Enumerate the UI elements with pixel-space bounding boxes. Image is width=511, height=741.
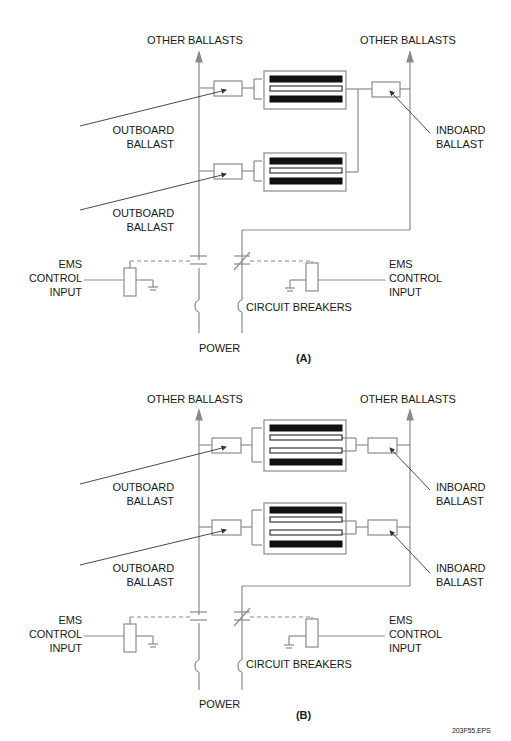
label-line: INBOARD bbox=[436, 561, 485, 575]
label-circuit-breakers-b: CIRCUIT BREAKERS bbox=[246, 657, 352, 671]
label-line: CONTROL bbox=[10, 627, 82, 641]
label-line: OUTBOARD bbox=[100, 561, 174, 575]
label-power-a: POWER bbox=[199, 341, 240, 355]
label-ems-control-input-left-b: EMS CONTROL INPUT bbox=[10, 613, 82, 655]
label-line: BALLAST bbox=[436, 494, 485, 508]
label-other-ballasts-right-a: OTHER BALLASTS bbox=[360, 33, 456, 47]
label-line: CONTROL bbox=[10, 271, 82, 285]
label-outboard-ballast-a2: OUTBOARD BALLAST bbox=[100, 206, 174, 234]
label-line: BALLAST bbox=[100, 220, 174, 234]
label-line: OUTBOARD bbox=[100, 480, 174, 494]
diagram-a-wiring bbox=[84, 52, 413, 333]
label-outboard-ballast-a1: OUTBOARD BALLAST bbox=[100, 123, 174, 151]
label-ems-control-input-left-a: EMS CONTROL INPUT bbox=[10, 257, 82, 299]
label-line: BALLAST bbox=[100, 494, 174, 508]
label-other-ballasts-left-b: OTHER BALLASTS bbox=[147, 392, 243, 406]
label-line: CONTROL bbox=[389, 271, 442, 285]
label-ems-control-input-right-b: EMS CONTROL INPUT bbox=[389, 613, 442, 655]
label-circuit-breakers-a: CIRCUIT BREAKERS bbox=[246, 300, 352, 314]
label-line: EMS bbox=[389, 257, 442, 271]
label-line: BALLAST bbox=[436, 137, 485, 151]
diagram-b-lamps bbox=[270, 425, 342, 547]
label-line: INPUT bbox=[389, 641, 442, 655]
label-outboard-ballast-b1: OUTBOARD BALLAST bbox=[100, 480, 174, 508]
label-line: INPUT bbox=[10, 641, 82, 655]
label-other-ballasts-right-b: OTHER BALLASTS bbox=[360, 392, 456, 406]
diagram-a-lamps bbox=[270, 76, 342, 184]
label-line: OUTBOARD bbox=[100, 123, 174, 137]
label-line: INBOARD bbox=[436, 480, 485, 494]
label-inboard-ballast-b1: INBOARD BALLAST bbox=[436, 480, 485, 508]
figure-file-id: 203F55.EPS bbox=[452, 724, 491, 738]
caption-b: (B) bbox=[296, 708, 311, 722]
label-line: INPUT bbox=[10, 285, 82, 299]
label-line: BALLAST bbox=[100, 137, 174, 151]
label-line: EMS bbox=[10, 613, 82, 627]
label-line: INPUT bbox=[389, 285, 442, 299]
label-ems-control-input-right-a: EMS CONTROL INPUT bbox=[389, 257, 442, 299]
diagram-b-wiring bbox=[84, 410, 413, 690]
label-line: INBOARD bbox=[436, 123, 485, 137]
label-line: EMS bbox=[389, 613, 442, 627]
label-line: CONTROL bbox=[389, 627, 442, 641]
label-line: EMS bbox=[10, 257, 82, 271]
label-line: BALLAST bbox=[100, 575, 174, 589]
label-other-ballasts-left-a: OTHER BALLASTS bbox=[147, 33, 243, 47]
label-line: BALLAST bbox=[436, 575, 485, 589]
label-power-b: POWER bbox=[199, 697, 240, 711]
caption-a: (A) bbox=[296, 351, 311, 365]
label-line: OUTBOARD bbox=[100, 206, 174, 220]
label-outboard-ballast-b2: OUTBOARD BALLAST bbox=[100, 561, 174, 589]
label-inboard-ballast-a1: INBOARD BALLAST bbox=[436, 123, 485, 151]
label-inboard-ballast-b2: INBOARD BALLAST bbox=[436, 561, 485, 589]
